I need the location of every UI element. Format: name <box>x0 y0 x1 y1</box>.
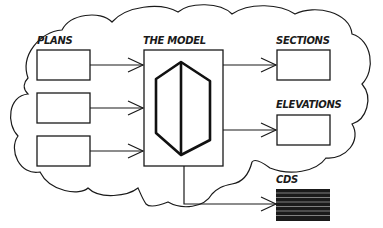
plans-label: PLANS <box>37 36 73 46</box>
sections-label: SECTIONS <box>276 36 330 46</box>
model-workflow-diagram: PLANS THE MODEL SECTIONS ELEVATIONS CDS <box>0 0 383 228</box>
elevations-box <box>277 115 330 145</box>
plan-box-2 <box>37 93 90 123</box>
arrow-plan2-to-model <box>90 101 143 115</box>
arrow-model-to-sections <box>223 58 276 72</box>
arrow-model-to-cds <box>184 166 276 211</box>
cds-label: CDS <box>276 175 298 185</box>
arrow-plan1-to-model <box>90 58 143 72</box>
elevations-label: ELEVATIONS <box>276 100 342 110</box>
arrow-plan3-to-model <box>90 144 143 158</box>
plan-box-3 <box>37 136 90 166</box>
arrow-model-to-elevations <box>223 123 276 137</box>
plan-box-1 <box>37 50 90 80</box>
sections-box <box>277 50 330 80</box>
cds-document-stack <box>276 189 330 221</box>
model-label: THE MODEL <box>143 36 206 46</box>
